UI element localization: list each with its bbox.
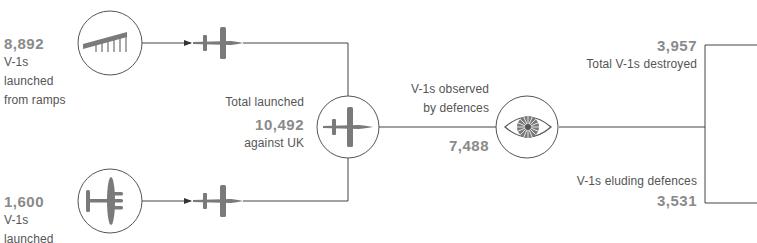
eluding-value: 3,531 bbox=[560, 191, 697, 210]
destroyed-text: Total V-1s destroyed bbox=[560, 55, 697, 74]
source-aircraft-value: 1,600 bbox=[4, 192, 54, 211]
v1-flying-bomb-icon bbox=[193, 27, 245, 59]
v1-flying-bomb-icon bbox=[323, 107, 375, 147]
total-label-top: Total launched bbox=[200, 93, 304, 112]
source-ramps-label: 8,892 V-1s launched from ramps bbox=[4, 34, 66, 110]
eluding-label: V-1s eluding defences 3,531 bbox=[560, 172, 697, 210]
observed-label-line1: V-1s observed bbox=[380, 80, 489, 99]
source-ramps-line1: V-1s bbox=[4, 53, 66, 72]
total-label-bottom: against UK bbox=[200, 134, 304, 153]
v1-flying-bomb-icon bbox=[193, 185, 245, 217]
observed-label-line2: by defences bbox=[380, 99, 489, 118]
source-ramps-line2: launched bbox=[4, 72, 66, 91]
source-ramps-line3: from ramps bbox=[4, 91, 66, 110]
source-aircraft-line1: V-1s bbox=[4, 211, 54, 230]
source-aircraft-line2: launched bbox=[4, 230, 54, 243]
v1-flow-diagram: 8,892 V-1s launched from ramps 1,600 V-1… bbox=[0, 0, 757, 243]
bomber-aircraft-icon bbox=[84, 175, 134, 227]
eye-icon bbox=[503, 113, 553, 141]
source-ramps-value: 8,892 bbox=[4, 34, 66, 53]
eluding-text: V-1s eluding defences bbox=[560, 172, 697, 191]
destroyed-value: 3,957 bbox=[560, 36, 697, 55]
observed-value: 7,488 bbox=[380, 136, 489, 155]
total-launched-label: Total launched 10,492 against UK bbox=[200, 93, 304, 153]
launch-ramp-icon bbox=[82, 28, 138, 58]
total-launched-value: 10,492 bbox=[200, 115, 304, 134]
destroyed-label: 3,957 Total V-1s destroyed bbox=[560, 36, 697, 74]
source-aircraft-label: 1,600 V-1s launched bbox=[4, 192, 54, 243]
observed-label: V-1s observed by defences bbox=[380, 80, 489, 118]
